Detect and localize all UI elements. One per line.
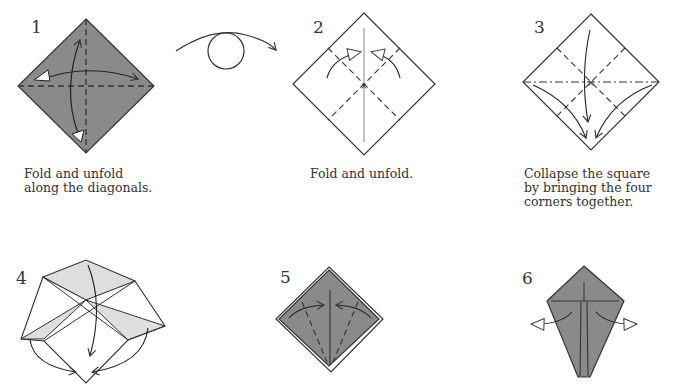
center-x-mark: × [360, 81, 368, 91]
step-1-diagram [18, 19, 154, 153]
step-4-diagram [21, 260, 165, 383]
step-1-caption: Fold and unfold along the diagonals. [24, 167, 152, 195]
top-flap [43, 260, 135, 300]
center-x-mark: × [587, 78, 595, 88]
turn-over-circle [208, 33, 244, 69]
step-number-4: 4 [16, 268, 27, 288]
turn-over-symbol [176, 33, 276, 69]
turn-over-arrow [176, 33, 276, 51]
step-number-1: 1 [31, 17, 42, 37]
step-5-diagram [276, 267, 383, 372]
front-layer [279, 270, 379, 366]
step-number-3: 3 [534, 17, 545, 37]
step-3-caption: Collapse the square by bringing the four… [524, 167, 652, 209]
push-arrow-left [30, 340, 76, 372]
step-2-caption: Fold and unfold. [310, 167, 413, 181]
step-number-5: 5 [280, 267, 291, 287]
step-number-6: 6 [522, 268, 533, 288]
step-6-diagram [532, 266, 636, 377]
step-number-2: 2 [313, 17, 324, 37]
